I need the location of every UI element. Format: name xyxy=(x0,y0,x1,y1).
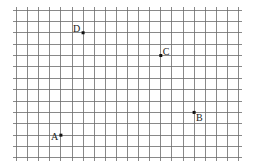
grid-diagram: ABCD xyxy=(0,0,253,168)
grid-lines xyxy=(13,7,242,162)
point-marker-icon xyxy=(59,134,62,137)
point-label: C xyxy=(163,46,170,57)
points-layer: ABCD xyxy=(51,23,203,142)
point-marker-icon xyxy=(82,31,85,34)
point-label: A xyxy=(51,131,59,142)
point-label: D xyxy=(73,23,80,34)
point-label: B xyxy=(196,112,203,123)
